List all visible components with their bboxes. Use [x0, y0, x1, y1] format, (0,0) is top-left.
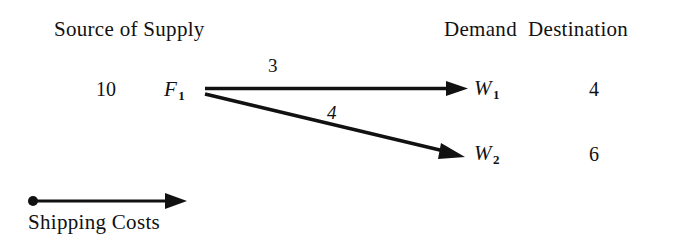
arrowhead-f1-w1	[446, 81, 468, 96]
arc-f1-w1	[205, 81, 468, 96]
arrow-layer	[0, 0, 675, 244]
transportation-network-diagram: Source of Supply Demand Destination 10 F…	[0, 0, 675, 244]
arrowhead-f1-w2	[438, 143, 465, 159]
arc-line-f1-w2	[205, 94, 444, 151]
arc-f1-w2	[205, 94, 465, 159]
legend-caption: Shipping Costs	[28, 212, 160, 233]
legend-arrowhead-icon	[165, 193, 187, 209]
legend-symbol	[28, 193, 187, 209]
